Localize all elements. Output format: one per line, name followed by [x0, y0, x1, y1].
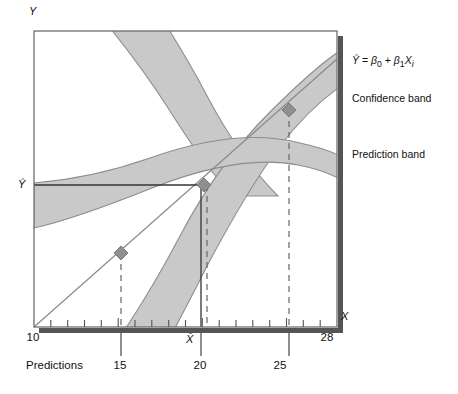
predictions-caption: Predictions — [26, 359, 83, 371]
frame-shadow-right — [338, 36, 343, 332]
y-hat-value-label: Ŷ — [18, 178, 25, 190]
prediction-label-20: 20 — [185, 359, 215, 371]
x-axis-min-tick-label: 10 — [20, 331, 46, 343]
prediction-label-15: 15 — [105, 359, 135, 371]
legend-regression-equation: Ŷ = β0 + β1Xi — [352, 54, 414, 69]
x-axis-label: X — [341, 310, 348, 322]
figure-canvas: Y X Ŷ X̄ 10 28 Predictions 15 20 25 Ŷ = … — [0, 0, 458, 394]
x-mean-value-label: X̄ — [186, 333, 193, 345]
legend-prediction-band: Prediction band — [352, 148, 425, 160]
x-axis-max-tick-label: 28 — [314, 331, 340, 343]
prediction-label-25: 25 — [265, 359, 295, 371]
legend-confidence-band: Confidence band — [352, 92, 431, 104]
label-leader-lines — [121, 333, 289, 356]
y-axis-label: Y — [29, 5, 36, 17]
